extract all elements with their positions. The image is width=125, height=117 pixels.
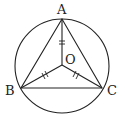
- label-o: O: [65, 52, 76, 67]
- label-c: C: [107, 83, 117, 98]
- segment-oc: [62, 65, 102, 88]
- label-b: B: [5, 83, 15, 98]
- label-a: A: [56, 2, 67, 17]
- geometry-diagram: A O B C: [0, 0, 125, 117]
- segment-ob: [21, 65, 62, 88]
